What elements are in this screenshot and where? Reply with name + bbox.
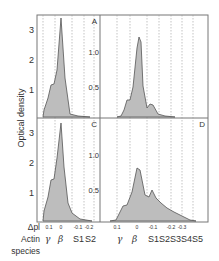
svg-text:-0.1: -0.1 [149, 224, 158, 230]
svg-text:2: 2 [29, 158, 34, 168]
svg-text:-0.2: -0.2 [167, 224, 176, 230]
svg-text:0.5: 0.5 [89, 83, 99, 92]
svg-text:0: 0 [136, 224, 139, 230]
delta-pi-label: Δpl [28, 222, 40, 232]
panel-d-xticks: 0.1 0 -0.1 -0.2 -0.3 [114, 224, 187, 230]
svg-text:S2: S2 [85, 234, 96, 244]
y-axis-title: Optical density [16, 88, 26, 148]
svg-text:0.1: 0.1 [46, 224, 53, 230]
svg-text:1: 1 [29, 188, 34, 198]
svg-text:S3: S3 [170, 234, 181, 244]
svg-text:S1: S1 [73, 234, 84, 244]
svg-text:-0.3: -0.3 [178, 224, 187, 230]
svg-text:S4: S4 [181, 234, 192, 244]
panel-c-species: γ β S1 S2 [45, 234, 96, 244]
svg-text:β: β [57, 234, 63, 244]
panel-c-curve [43, 123, 92, 221]
panel-c-xticks: 0.1 0 -0.1 -0.2 [46, 224, 94, 230]
panel-d-species: γ β S1 S2 S3 S4 S5 [117, 234, 203, 244]
svg-text:-0.1: -0.1 [74, 224, 83, 230]
svg-text:-0.2: -0.2 [85, 224, 94, 230]
svg-text:2: 2 [29, 55, 34, 65]
panel-c-yticks: 3 2 1 [29, 128, 34, 198]
panel-a-curve [43, 18, 90, 117]
panel-d-yticks: 1.0 0.5 [89, 151, 99, 195]
svg-text:1.0: 1.0 [89, 151, 99, 160]
svg-text:β: β [131, 234, 137, 244]
svg-text:0.1: 0.1 [114, 224, 121, 230]
svg-text:1.0: 1.0 [89, 48, 99, 57]
panel-a-yticks: 3 2 1 [29, 25, 34, 95]
svg-text:S5: S5 [192, 234, 203, 244]
panel-label-c: C [91, 120, 97, 129]
svg-text:γ: γ [117, 234, 123, 244]
svg-text:0: 0 [60, 224, 63, 230]
actin-label: Actin [21, 234, 40, 244]
panel-label-d: D [199, 120, 205, 129]
svg-text:S1: S1 [148, 234, 159, 244]
svg-text:3: 3 [29, 128, 34, 138]
svg-text:3: 3 [29, 25, 34, 35]
svg-text:1: 1 [29, 85, 34, 95]
panel-d-curve [110, 168, 196, 221]
svg-text:S2: S2 [159, 234, 170, 244]
species-label: species [11, 246, 40, 256]
figure: 3 2 1 3 2 1 1.0 0.5 1.0 0.5 A C D Optica… [0, 0, 219, 261]
svg-text:γ: γ [45, 234, 51, 244]
svg-text:0.5: 0.5 [89, 186, 99, 195]
panel-b-curve [117, 37, 175, 117]
panel-label-a: A [92, 17, 98, 26]
